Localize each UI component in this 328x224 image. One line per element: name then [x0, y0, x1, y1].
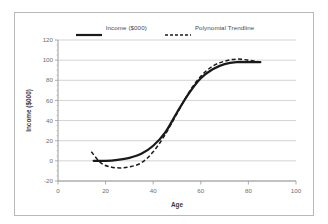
y-tick-label: -20 — [44, 177, 54, 184]
series-line-income — [94, 62, 261, 161]
y-tick-label: 0 — [50, 157, 54, 164]
x-axis-ticks: 020406080100 — [56, 181, 301, 194]
y-tick-label: 60 — [46, 97, 53, 104]
y-tick-label: 80 — [46, 76, 53, 83]
x-tick-label: 0 — [56, 187, 60, 194]
x-tick-label: 40 — [150, 187, 157, 194]
x-tick-label: 60 — [197, 187, 204, 194]
x-axis-title: Age — [171, 201, 184, 209]
y-tick-label: 20 — [46, 137, 53, 144]
x-tick-label: 20 — [102, 187, 109, 194]
y-tick-label: 100 — [43, 56, 54, 63]
plot-area: -20020406080100120 020406080100 Age Inco… — [15, 13, 315, 217]
x-tick-label: 100 — [291, 187, 302, 194]
x-tick-label: 80 — [245, 187, 252, 194]
chart-frame: Income ($000) Polynomial Trendline -2002… — [14, 12, 314, 216]
y-tick-label: 40 — [46, 117, 53, 124]
y-tick-label: 120 — [43, 36, 54, 43]
y-axis-ticks: -20020406080100120 — [43, 36, 58, 184]
y-axis-title: Income ($000) — [25, 89, 33, 132]
